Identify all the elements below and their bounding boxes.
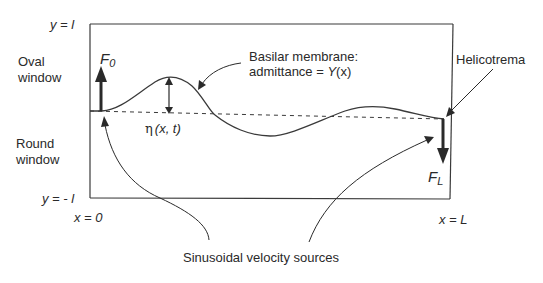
displacement-label: η(x, t) [145, 121, 181, 136]
force-arrow-fl [437, 119, 449, 164]
x-end-label: x = L [438, 212, 468, 227]
bottom-wall [90, 198, 450, 199]
cochlea-diagram: η(x, t) F0 FL y = l y = - l x = 0 x = L … [0, 0, 543, 283]
velocity-sources-label: Sinusoidal velocity sources [183, 250, 340, 265]
basilar-pointer-arrowhead [198, 80, 206, 90]
force-label-f0: F0 [100, 50, 116, 69]
oval-window-label-1: Oval [18, 54, 45, 69]
round-window-label-2: window [15, 152, 60, 167]
rest-line-dashed [90, 111, 444, 119]
bottom-boundary-label: y = - l [41, 191, 75, 206]
source-pointer-left-arrowhead [101, 116, 109, 127]
helicotrema-pointer [452, 69, 493, 110]
oval-window-label-2: window [17, 70, 62, 85]
force-label-fl: FL [428, 168, 443, 187]
source-pointer-right [309, 140, 427, 242]
source-pointer-right-arrowhead [424, 136, 434, 144]
source-pointer-left [105, 125, 209, 240]
top-boundary-label: y = l [49, 17, 75, 32]
basilar-pointer-arrow [202, 63, 241, 84]
basilar-membrane-label-1: Basilar membrane: [249, 49, 358, 64]
x-start-label: x = 0 [73, 210, 103, 225]
round-window-label-1: Round [16, 136, 54, 151]
basilar-membrane-label-2: admittance = Y(x) [249, 64, 351, 79]
basilar-membrane-wave [90, 77, 444, 136]
displacement-arrow [165, 77, 173, 114]
helicotrema-label: Helicotrema [456, 52, 526, 67]
force-arrow-f0 [95, 66, 107, 111]
